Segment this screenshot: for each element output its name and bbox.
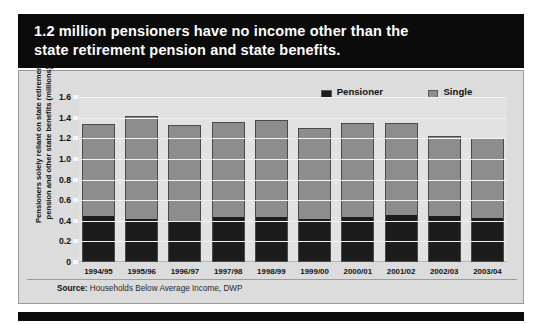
bar-segment-single-pensioners: [169, 126, 200, 223]
x-axis-tick-label: 1997/98: [212, 267, 245, 276]
source-text: Households Below Average Income, DWP: [87, 284, 242, 293]
gridline: [79, 118, 507, 119]
y-axis-title: Pensioners solely reliant on state retir…: [34, 58, 54, 228]
chart-panel: Pensioner couples Single pensioners Pens…: [18, 70, 524, 304]
x-axis-tick-label: 2000/01: [341, 267, 374, 276]
bar-segment-pensioner-couples: [472, 218, 503, 261]
y-axis-tick-mark: [73, 178, 78, 182]
y-axis-tick-mark: [73, 260, 78, 264]
bar-segment-single-pensioners: [126, 117, 157, 220]
x-axis-tick-label: 1998/99: [255, 267, 288, 276]
bar-segment-pensioner-couples: [299, 219, 330, 261]
title-banner: 1.2 million pensioners have no income ot…: [18, 14, 524, 68]
bar-segment-pensioner-couples: [342, 217, 373, 261]
title-line-1: 1.2 million pensioners have no income ot…: [34, 22, 508, 41]
bar-segment-pensioner-couples: [429, 216, 460, 261]
bar-segment-pensioner-couples: [256, 217, 287, 261]
y-axis-tick-mark: [73, 95, 78, 99]
y-axis-tick-mark: [73, 116, 78, 120]
y-axis-tick-label: 0.2: [59, 236, 71, 246]
bar-segment-single-pensioners: [256, 121, 287, 218]
y-axis-tick-label: 1.4: [59, 113, 71, 123]
title-line-2: state retirement pension and state benef…: [34, 41, 508, 60]
y-axis-tick-mark: [73, 198, 78, 202]
x-axis-tick-label: 2002/03: [428, 267, 461, 276]
y-axis-tick-label: 0.6: [59, 195, 71, 205]
gridline: [79, 138, 507, 139]
x-axis-tick-label: 2001/02: [385, 267, 418, 276]
source-divider: [27, 279, 517, 280]
gridline: [79, 200, 507, 201]
bar-segment-pensioner-couples: [83, 216, 114, 261]
plot-area: 00.20.40.60.81.01.21.41.6: [79, 97, 507, 262]
x-axis-labels: 1994/951995/961996/971997/981998/991999/…: [79, 267, 507, 276]
stacked-bar: [428, 136, 461, 262]
y-axis-tick-mark: [73, 136, 78, 140]
gridline: [79, 159, 507, 160]
gridline: [79, 241, 507, 242]
bar-segment-single-pensioners: [429, 137, 460, 216]
y-axis-tick-label: 0.4: [59, 216, 71, 226]
x-axis-tick-label: 1999/00: [298, 267, 331, 276]
y-axis-tick-label: 0.8: [59, 175, 71, 185]
bar-segment-pensioner-couples: [213, 217, 244, 261]
bar-segment-pensioner-couples: [386, 215, 417, 261]
x-axis-tick-label: 1995/96: [125, 267, 158, 276]
gridline: [79, 221, 507, 222]
bottom-accent-bar: [18, 312, 524, 321]
y-axis-tick-label: 1.0: [59, 154, 71, 164]
y-axis-tick-mark: [73, 157, 78, 161]
source-prefix: Source:: [57, 284, 87, 293]
infographic-page: 1.2 million pensioners have no income ot…: [0, 0, 542, 324]
x-axis-tick-label: 1996/97: [168, 267, 201, 276]
y-axis-tick-label: 0: [66, 257, 71, 267]
y-axis-tick-label: 1.2: [59, 133, 71, 143]
bar-segment-single-pensioners: [213, 123, 244, 218]
bar-segment-single-pensioners: [299, 129, 330, 219]
x-axis-tick-label: 1994/95: [82, 267, 115, 276]
gridline: [79, 180, 507, 181]
y-axis-tick-mark: [73, 219, 78, 223]
source-note: Source: Households Below Average Income,…: [57, 284, 243, 293]
bar-segment-pensioner-couples: [126, 219, 157, 261]
gridline: [79, 97, 507, 98]
x-axis-tick-label: 2003/04: [471, 267, 504, 276]
y-axis-tick-mark: [73, 239, 78, 243]
y-axis-tick-label: 1.6: [59, 92, 71, 102]
